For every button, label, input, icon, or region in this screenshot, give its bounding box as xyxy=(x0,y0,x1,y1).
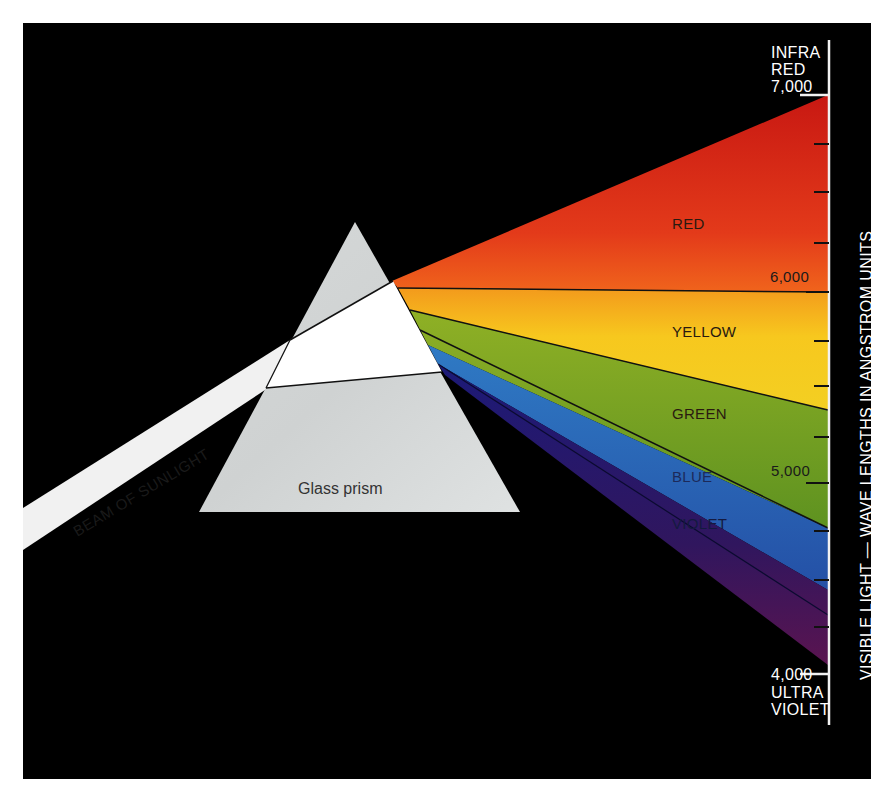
tick-7000-label: 7,000 xyxy=(771,78,813,95)
infra-label-line2: RED xyxy=(771,61,806,78)
axis-title: VISIBLE LIGHT — WAVE LENGTHS IN ANGSTROM… xyxy=(858,231,876,680)
ultra-label-line1: ULTRA xyxy=(771,684,824,701)
band-label-blue: BLUE xyxy=(672,468,712,485)
tick-4000-label: 4,000 xyxy=(771,666,813,683)
band-label-violet: VIOLET xyxy=(672,515,727,532)
infra-label-line1: INFRA xyxy=(771,44,821,61)
tick-5000-label: 5,000 xyxy=(771,462,810,479)
band-label-red: RED xyxy=(672,215,705,232)
diagram-canvas xyxy=(0,0,893,797)
tick-6000-label: 6,000 xyxy=(770,268,809,285)
prism-label: Glass prism xyxy=(298,480,382,498)
band-label-yellow: YELLOW xyxy=(672,323,736,340)
ultra-label-line2: VIOLET xyxy=(771,701,830,718)
spectrum-diagram: INFRA RED 7,000 6,000 5,000 4,000 ULTRA … xyxy=(0,0,893,797)
band-label-green: GREEN xyxy=(672,405,727,422)
